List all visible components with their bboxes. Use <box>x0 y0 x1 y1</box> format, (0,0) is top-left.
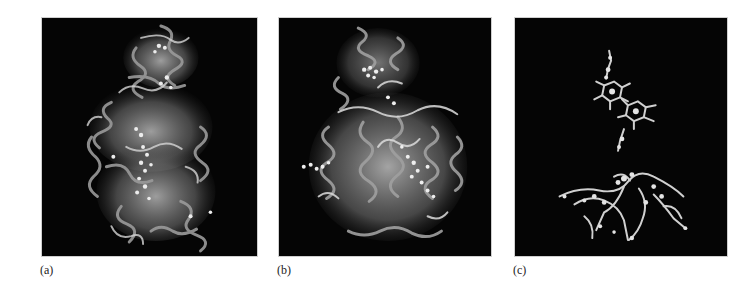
protein-structure-image-b <box>279 18 491 256</box>
panel-label-c: (c) <box>513 263 526 278</box>
figure-panel-b <box>278 17 492 257</box>
panel-label-a: (a) <box>40 263 53 278</box>
panel-label-b: (b) <box>277 263 291 278</box>
protein-structure-image-a <box>42 18 257 256</box>
figure-panel-c <box>514 17 728 257</box>
cofactor-structure-image-c <box>515 18 727 256</box>
figure-panel-a <box>41 17 258 257</box>
